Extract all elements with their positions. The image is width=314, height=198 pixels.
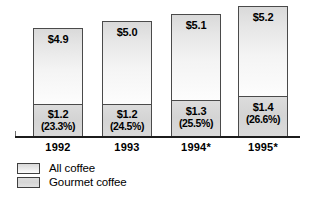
- value-label-all-coffee: $5.2: [238, 11, 288, 23]
- gourmet-amount: $1.2: [117, 108, 138, 120]
- category-label-1992: 1992: [33, 141, 83, 153]
- legend: All coffee Gourmet coffee: [17, 162, 127, 190]
- legend-swatch-gourmet-coffee: [17, 177, 40, 188]
- gourmet-amount: $1.2: [48, 108, 69, 120]
- gourmet-percent: (24.5%): [102, 120, 152, 132]
- value-label-gourmet-coffee: $1.4 (26.6%): [238, 101, 288, 125]
- x-axis-line: [15, 136, 300, 138]
- legend-label-gourmet-coffee: Gourmet coffee: [49, 176, 127, 189]
- stacked-bar-chart: $4.9 $1.2 (23.3%) 1992 $5.0 $1.2 (24.5%)…: [0, 0, 314, 198]
- legend-label-all-coffee: All coffee: [49, 162, 95, 175]
- gourmet-percent: (23.3%): [33, 120, 83, 132]
- value-label-all-coffee: $5.1: [171, 19, 221, 31]
- category-label-1993: 1993: [102, 141, 152, 153]
- value-label-gourmet-coffee: $1.2 (23.3%): [33, 108, 83, 132]
- gourmet-percent: (26.6%): [238, 113, 288, 125]
- value-label-all-coffee: $4.9: [33, 33, 83, 45]
- gourmet-amount: $1.3: [186, 105, 207, 117]
- category-label-1994: 1994*: [171, 141, 221, 153]
- value-label-gourmet-coffee: $1.3 (25.5%): [171, 105, 221, 129]
- legend-item-gourmet-coffee[interactable]: Gourmet coffee: [17, 176, 127, 189]
- gourmet-amount: $1.4: [253, 101, 274, 113]
- value-label-gourmet-coffee: $1.2 (24.5%): [102, 108, 152, 132]
- legend-swatch-all-coffee: [17, 163, 40, 174]
- value-label-all-coffee: $5.0: [102, 26, 152, 38]
- legend-item-all-coffee[interactable]: All coffee: [17, 162, 127, 175]
- gourmet-percent: (25.5%): [171, 117, 221, 129]
- category-label-1995: 1995*: [238, 141, 288, 153]
- plot-area: $4.9 $1.2 (23.3%) 1992 $5.0 $1.2 (24.5%)…: [0, 0, 314, 138]
